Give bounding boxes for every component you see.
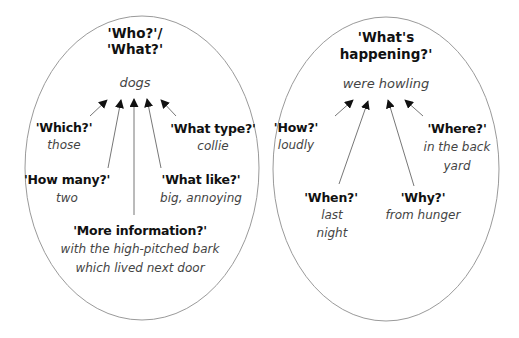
answer-more-information-line1: with the high-pitched bark	[61, 242, 220, 256]
right-heading-line2: happening?'	[340, 46, 433, 62]
question-what-like: 'What like?'	[162, 172, 241, 187]
arrow-what-like	[147, 99, 161, 168]
answer-how: loudly	[278, 138, 314, 152]
question-how-many: 'How many?'	[24, 172, 110, 187]
arrow-where	[405, 100, 423, 116]
answer-why: from hunger	[386, 208, 461, 222]
diagram-canvas	[0, 0, 519, 338]
arrow-when	[339, 101, 368, 184]
answer-where-line2: yard	[443, 159, 470, 173]
question-when: 'When?'	[304, 190, 358, 205]
answer-when-line1: last	[321, 208, 343, 222]
answer-how-many: two	[56, 191, 78, 205]
answer-when-line2: night	[317, 226, 348, 240]
answer-which: those	[47, 138, 80, 152]
question-which: 'Which?'	[36, 120, 93, 135]
left-heading-line2: 'What?'	[107, 41, 163, 57]
arrow-which	[90, 100, 107, 116]
arrow-why	[388, 100, 414, 186]
answer-what-like: big, annoying	[160, 191, 242, 205]
question-where: 'Where?'	[427, 121, 486, 136]
answer-more-information-line2: which lived next door	[75, 261, 204, 275]
right-core-phrase: were howling	[343, 76, 430, 91]
question-how: 'How?'	[274, 120, 318, 135]
left-core-word: dogs	[119, 75, 150, 90]
arrow-how-many	[108, 100, 121, 168]
answer-where-line1: in the back	[424, 140, 491, 154]
right-heading-line1: 'What's	[358, 29, 414, 45]
question-more-information: 'More information?'	[73, 223, 207, 238]
answer-what-type: collie	[197, 139, 228, 153]
question-why: 'Why?'	[401, 190, 446, 205]
arrow-how	[335, 100, 353, 116]
arrow-what-type	[161, 100, 176, 116]
question-what-type: 'What type?'	[170, 121, 256, 136]
left-heading-line1: 'Who?'/	[108, 25, 163, 41]
